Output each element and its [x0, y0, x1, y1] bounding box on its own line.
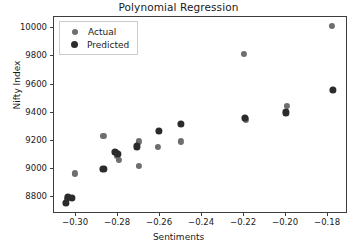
legend-marker-predicted-icon — [71, 41, 78, 48]
figure-canvas: Polynomial Regression Nifty Index Sentim… — [0, 0, 357, 250]
x-tick-label: −0.20 — [265, 217, 305, 227]
scatter-point-actual — [136, 163, 142, 169]
y-tick-label: 9000 — [3, 163, 47, 173]
x-tick-mark — [75, 213, 76, 216]
scatter-point-predicted — [282, 109, 289, 116]
x-tick-label: −0.26 — [139, 217, 179, 227]
scatter-point-actual — [241, 51, 247, 57]
x-tick-label: −0.22 — [223, 217, 263, 227]
scatter-point-actual — [178, 138, 184, 144]
scatter-point-actual — [72, 170, 78, 176]
scatter-point-predicted — [133, 143, 140, 150]
scatter-point-actual — [116, 157, 122, 163]
scatter-point-actual — [329, 23, 335, 29]
scatter-point-predicted — [100, 165, 107, 172]
x-tick-mark — [243, 213, 244, 216]
chart-legend: ActualPredicted — [59, 21, 138, 55]
scatter-point-actual — [100, 133, 106, 139]
x-tick-mark — [327, 213, 328, 216]
y-tick-label: 9400 — [3, 107, 47, 117]
y-tick-label: 9600 — [3, 79, 47, 89]
x-tick-mark — [201, 213, 202, 216]
y-tick-label: 10000 — [3, 22, 47, 32]
x-tick-mark — [285, 213, 286, 216]
scatter-point-predicted — [155, 128, 162, 135]
legend-marker-actual-icon — [72, 29, 78, 35]
x-tick-label: −0.30 — [55, 217, 95, 227]
scatter-point-predicted — [177, 120, 184, 127]
x-tick-label: −0.28 — [97, 217, 137, 227]
x-tick-mark — [159, 213, 160, 216]
legend-label: Predicted — [87, 40, 129, 50]
x-tick-label: −0.24 — [181, 217, 221, 227]
y-tick-label: 8800 — [3, 191, 47, 201]
legend-label: Actual — [88, 27, 116, 37]
x-axis-label: Sentiments — [0, 232, 357, 242]
x-tick-label: −0.18 — [307, 217, 347, 227]
y-tick-label: 9800 — [3, 50, 47, 60]
scatter-point-predicted — [68, 194, 75, 201]
chart-title: Polynomial Regression — [0, 1, 357, 13]
scatter-point-predicted — [330, 86, 337, 93]
legend-item-actual[interactable]: Actual — [64, 25, 129, 38]
legend-item-predicted[interactable]: Predicted — [64, 38, 129, 51]
x-tick-mark — [117, 213, 118, 216]
y-tick-label: 9200 — [3, 135, 47, 145]
scatter-point-actual — [155, 144, 161, 150]
